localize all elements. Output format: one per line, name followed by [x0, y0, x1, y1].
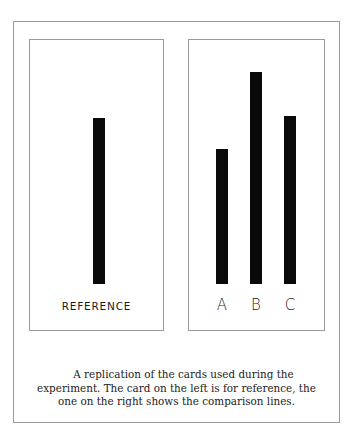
figure-caption: A replication of the cards used during t… — [13, 368, 340, 409]
label-a: A — [212, 296, 232, 314]
comparison-line-a — [216, 149, 228, 284]
caption-line-3: one on the right shows the comparison li… — [13, 395, 340, 409]
comparison-line-b — [250, 72, 262, 284]
caption-line-1: A replication of the cards used during t… — [13, 368, 340, 382]
label-b: B — [246, 296, 266, 314]
reference-line — [93, 118, 105, 284]
reference-label: REFERENCE — [30, 300, 163, 312]
comparison-card: A B C — [188, 39, 325, 331]
caption-line-2: experiment. The card on the left is for … — [13, 382, 340, 396]
comparison-line-c — [284, 116, 296, 284]
reference-card: REFERENCE — [29, 39, 164, 331]
label-c: C — [280, 296, 300, 314]
